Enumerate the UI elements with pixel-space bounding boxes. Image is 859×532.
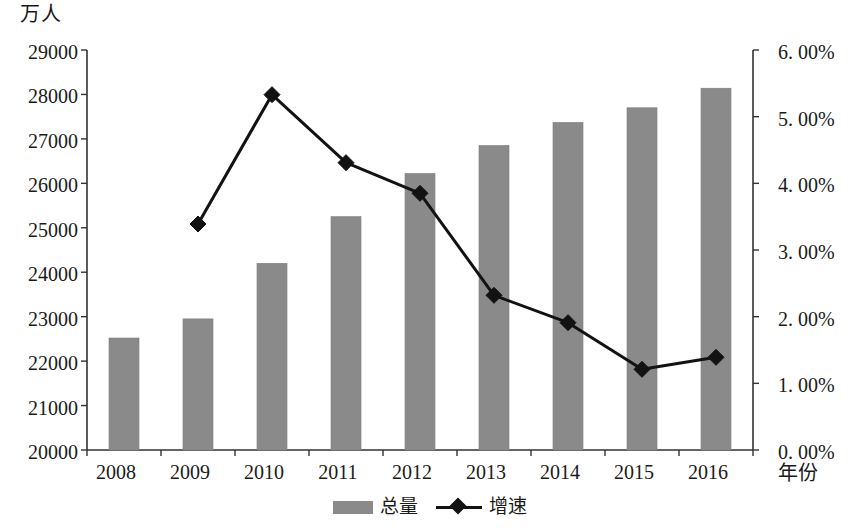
legend-label-total: 总量	[380, 497, 418, 517]
bar-series	[109, 88, 731, 450]
legend-label-growth: 增速	[489, 497, 527, 517]
bar-2012	[405, 174, 435, 450]
chart-container: 万人 29000 28000 27000 26000 25000 24000 2…	[0, 0, 859, 532]
legend-item-growth: 增速	[436, 497, 527, 517]
x-axis-title: 年份	[778, 462, 818, 484]
plot-area	[0, 0, 859, 532]
bar-2015	[627, 108, 657, 450]
bar-2016	[701, 88, 731, 450]
bar-2009	[183, 319, 213, 450]
legend-line-diamond-icon	[436, 500, 482, 514]
legend-bar-swatch-icon	[333, 501, 373, 514]
marker-2009	[190, 216, 206, 232]
bar-2011	[331, 217, 361, 450]
bar-2014	[553, 122, 583, 450]
bar-2008	[109, 338, 139, 450]
chart-legend: 总量 增速	[0, 497, 859, 517]
bar-2010	[257, 263, 287, 450]
x-tick-2016: 2016	[648, 462, 768, 482]
legend-item-total: 总量	[333, 497, 418, 517]
